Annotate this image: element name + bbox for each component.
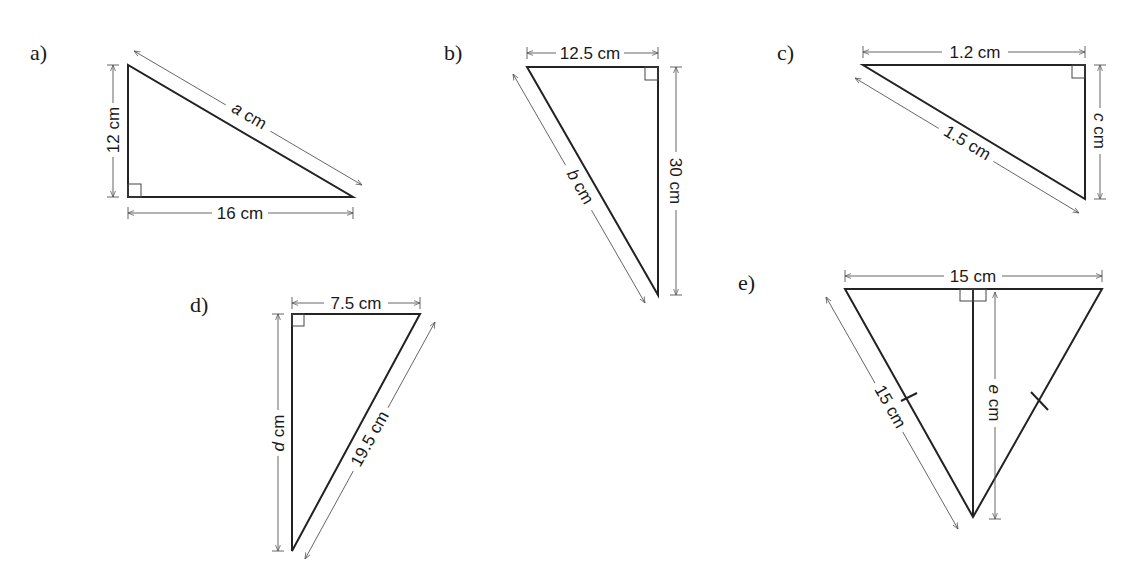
triangle-exercises-figure: a) 12 cm 16 cm a cm b) 12.5 cm 30 cm (0, 0, 1147, 586)
problem-c: c) 1.2 cm c cm 1.5 cm (777, 40, 1110, 213)
right-angle-mark (645, 67, 658, 80)
equal-side-tick (1031, 392, 1048, 410)
dim-e-top: 15 cm (950, 267, 996, 286)
triangle-c (863, 65, 1085, 199)
right-angle-mark (128, 184, 141, 197)
label-c: c) (777, 40, 794, 65)
dim-a-vertical: 12 cm (104, 107, 123, 153)
problem-b: b) 12.5 cm 30 cm b cm (444, 40, 686, 303)
dim-b-vertical: 30 cm (666, 158, 685, 204)
label-e: e) (738, 270, 755, 295)
dim-c-vertical: c cm (1090, 113, 1109, 149)
problem-a: a) 12 cm 16 cm a cm (30, 40, 362, 223)
problem-d: d) 7.5 cm d cm 19.5 cm (190, 292, 435, 559)
label-d: d) (190, 292, 208, 317)
dim-e-altitude: e cm (985, 385, 1004, 422)
label-b: b) (444, 40, 462, 65)
triangle-b (527, 67, 658, 295)
dim-d-vertical: d cm (269, 415, 288, 452)
triangle-d (292, 314, 420, 551)
triangle-a (128, 65, 353, 197)
right-angle-mark (292, 314, 304, 326)
label-a: a) (30, 40, 47, 65)
dim-c-top: 1.2 cm (949, 43, 1000, 62)
dim-e-slant: 15 cm (870, 382, 909, 432)
problem-e: e) 15 cm e cm 15 cm (738, 266, 1102, 529)
right-angle-mark (1072, 65, 1085, 78)
dim-b-top: 12.5 cm (560, 44, 620, 63)
dim-d-top: 7.5 cm (330, 294, 381, 313)
dim-a-horizontal: 16 cm (217, 204, 263, 223)
